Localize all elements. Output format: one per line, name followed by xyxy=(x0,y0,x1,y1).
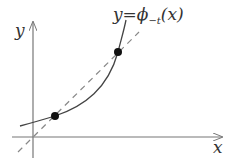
curve-label-eq: = xyxy=(123,4,137,24)
curve-label-arg: (x) xyxy=(161,4,184,24)
lower-fixed-point xyxy=(51,112,59,120)
curve-label-lhs: y xyxy=(113,4,123,24)
y-axis-label: y xyxy=(15,22,25,39)
upper-fixed-point xyxy=(114,48,122,56)
curve-label: y=ϕ−t(x) xyxy=(113,6,184,26)
curve-label-subscript: −t xyxy=(148,15,160,26)
curve-label-phi: ϕ xyxy=(137,4,149,24)
x-axis-label: x xyxy=(213,139,223,156)
function-curve xyxy=(20,20,126,126)
